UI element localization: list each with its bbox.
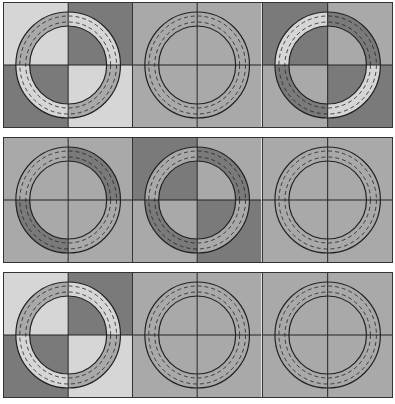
ring-icon: [263, 273, 392, 397]
ring-icon: [4, 3, 132, 127]
ring-tile: [4, 3, 133, 127]
ring-tile: [263, 138, 392, 262]
ring-icon: [263, 3, 392, 127]
ring-tile: [263, 3, 392, 127]
ring-icon: [263, 138, 392, 262]
tile-row: [3, 137, 393, 263]
ring-tile: [4, 138, 133, 262]
tile-row: [3, 272, 393, 398]
ring-tile: [263, 273, 392, 397]
ring-tile: [4, 273, 133, 397]
ring-tile: [133, 3, 262, 127]
ring-tile: [133, 273, 262, 397]
tile-row: [3, 2, 393, 128]
ring-icon: [133, 3, 261, 127]
ring-icon: [133, 138, 261, 262]
ring-icon: [4, 138, 132, 262]
ring-icon: [4, 273, 132, 397]
ring-icon: [133, 273, 261, 397]
ring-tile: [133, 138, 262, 262]
